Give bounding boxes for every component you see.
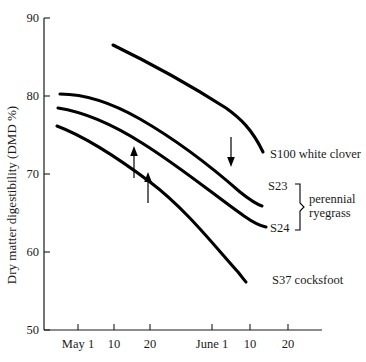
chart-canvas: 50 60 70 80 90 May 1 10 20 June 1 10 20 …	[0, 0, 366, 362]
series-curves	[57, 45, 266, 282]
y-tick-label-60: 60	[27, 245, 40, 259]
y-tick-label-70: 70	[27, 167, 40, 181]
brace-icon	[295, 184, 304, 230]
x-tick-label-june-1: June 1	[196, 337, 228, 351]
y-tick-label-50: 50	[27, 323, 40, 337]
group-label-line-1: perennial	[309, 192, 356, 206]
series-label-s23: S23	[268, 179, 287, 193]
group-label-line-2: ryegrass	[309, 206, 351, 220]
chart-figure: 50 60 70 80 90 May 1 10 20 June 1 10 20 …	[0, 0, 366, 362]
y-tick-label-80: 80	[27, 89, 40, 103]
perennial-ryegrass-brace-group: perennial ryegrass	[295, 184, 356, 230]
y-axis-title: Dry matter digestibility (DMD %)	[4, 106, 19, 284]
series-label-s37-cocksfoot: S37 cocksfoot	[272, 273, 344, 287]
x-axis-ticks: May 1 10 20 June 1 10 20	[62, 324, 294, 351]
curve-s24	[58, 108, 266, 227]
x-tick-label-june-10: 10	[244, 337, 257, 351]
down-arrow-right-icon	[227, 137, 235, 167]
x-tick-label-may-20: 20	[144, 337, 157, 351]
curve-s100-white-clover	[113, 45, 263, 152]
x-tick-label-may-10: 10	[108, 337, 121, 351]
x-tick-label-june-20: 20	[282, 337, 295, 351]
series-label-s100-white-clover: S100 white clover	[270, 147, 362, 161]
series-label-s24: S24	[270, 221, 290, 235]
y-axis-ticks: 50 60 70 80 90	[27, 11, 51, 337]
x-tick-label-may-1: May 1	[62, 337, 94, 351]
y-tick-label-90: 90	[27, 11, 40, 25]
